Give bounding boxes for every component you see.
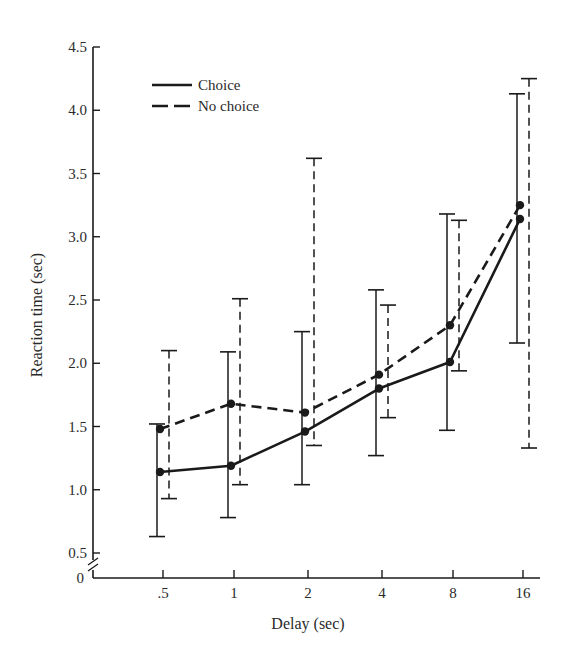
data-point [446, 321, 454, 329]
y-tick-label: 1.0 [68, 482, 87, 498]
y-tick-label: 0 [77, 570, 85, 586]
x-axis: .5124816 [93, 570, 540, 601]
legend-label: No choice [198, 98, 260, 114]
legend-label: Choice [198, 77, 241, 93]
y-tick-label: 1.5 [68, 419, 87, 435]
series-no-choice [156, 79, 537, 499]
series-layer [149, 79, 537, 537]
data-point [516, 215, 524, 223]
data-point [375, 384, 383, 392]
x-axis-label: Delay (sec) [271, 615, 344, 633]
x-tick-label: 4 [378, 585, 386, 601]
data-point [156, 468, 164, 476]
x-tick-label: 1 [230, 585, 238, 601]
data-point [301, 408, 309, 416]
series-line [160, 205, 520, 429]
y-tick-label: 0.5 [68, 545, 87, 561]
x-tick-label: .5 [157, 585, 168, 601]
x-tick-label: 8 [449, 585, 457, 601]
data-point [446, 358, 454, 366]
y-tick-label: 4.0 [68, 102, 87, 118]
legend: ChoiceNo choice [152, 77, 260, 114]
series-choice [149, 94, 525, 537]
axis-break-mark [88, 564, 98, 571]
y-tick-label: 2.5 [68, 292, 87, 308]
data-point [301, 427, 309, 435]
data-point [227, 400, 235, 408]
y-tick-label: 3.5 [68, 166, 87, 182]
y-axis: 00.51.01.52.02.53.03.54.04.5 [68, 39, 100, 586]
y-tick-label: 3.0 [68, 229, 87, 245]
data-point [227, 462, 235, 470]
y-axis-label: Reaction time (sec) [28, 253, 46, 377]
x-tick-label: 16 [516, 585, 532, 601]
x-tick-label: 2 [304, 585, 312, 601]
reaction-time-chart: 00.51.01.52.02.53.03.54.04.5 .5124816 Ch… [0, 0, 573, 661]
data-point [375, 370, 383, 378]
data-point [156, 425, 164, 433]
data-point [516, 201, 524, 209]
series-line [160, 219, 520, 472]
y-tick-label: 2.0 [68, 355, 87, 371]
y-tick-label: 4.5 [68, 39, 87, 55]
